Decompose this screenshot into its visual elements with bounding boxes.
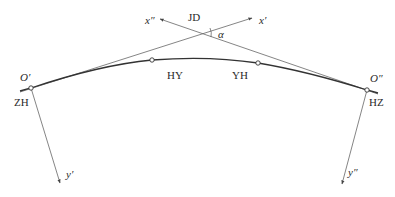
label-hz: HZ [369,97,384,108]
label-x-prime: x′ [259,15,266,26]
point-hy [150,58,154,62]
point-yh [256,61,260,65]
label-o-prime: O′ [20,72,30,83]
y-prime-axis [31,88,60,183]
label-x-double-prime: x″ [145,15,154,26]
label-alpha: α [218,29,224,40]
label-hy: HY [167,70,183,81]
point-zh [29,86,33,90]
label-y-double-prime: y″ [348,167,357,178]
label-jd: JD [188,12,200,23]
diagram-canvas [0,0,395,197]
angle-alpha-arc [210,28,211,37]
point-hz [365,88,369,92]
tangent-x-double-prime-line [160,19,378,94]
label-zh: ZH [14,97,29,108]
label-y-prime: y′ [66,169,73,180]
label-o-double-prime: O″ [370,73,383,84]
label-yh: YH [232,70,248,81]
